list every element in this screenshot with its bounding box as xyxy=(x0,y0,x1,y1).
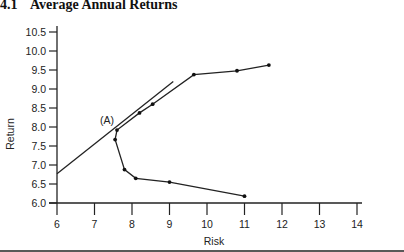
data-point-marker xyxy=(235,69,239,73)
x-tick-label: 11 xyxy=(239,218,250,230)
y-tick-label: 6.0 xyxy=(31,197,46,209)
x-tick-label: 9 xyxy=(167,218,173,230)
y-tick-label: 10.0 xyxy=(26,45,47,57)
data-point-marker xyxy=(134,176,138,180)
data-point-marker xyxy=(243,194,247,198)
data-point-marker xyxy=(192,73,196,77)
data-point-marker xyxy=(113,138,117,142)
x-tick-label: 13 xyxy=(314,218,326,230)
y-axis-label: Return xyxy=(4,118,16,150)
x-tick-label: 10 xyxy=(201,218,213,230)
y-tick-label: 9.5 xyxy=(31,64,46,76)
x-tick-label: 6 xyxy=(54,218,60,230)
chart-series: (A) xyxy=(57,63,271,198)
tangent-line xyxy=(57,81,173,173)
risk-return-chart: 6.06.57.07.58.08.59.09.510.010.567891011… xyxy=(0,0,404,252)
data-point-marker xyxy=(123,168,127,172)
data-point-marker xyxy=(267,63,271,67)
y-tick-label: 8.0 xyxy=(31,121,46,133)
data-point-marker xyxy=(151,102,155,106)
data-point-marker xyxy=(115,128,119,132)
x-tick-label: 8 xyxy=(129,218,135,230)
x-tick-label: 14 xyxy=(351,218,363,230)
point-annotation: (A) xyxy=(100,114,114,126)
x-tick-label: 7 xyxy=(92,218,98,230)
y-tick-label: 7.5 xyxy=(31,140,46,152)
x-tick-label: 12 xyxy=(276,218,288,230)
data-point-marker xyxy=(168,180,172,184)
chart-axes: 6.06.57.07.58.08.59.09.510.010.567891011… xyxy=(26,26,363,231)
data-point-marker xyxy=(138,111,142,115)
frontier-line xyxy=(115,65,269,196)
y-tick-label: 7.0 xyxy=(31,159,46,171)
y-tick-label: 8.5 xyxy=(31,102,46,114)
y-tick-label: 10.5 xyxy=(26,26,47,38)
y-tick-label: 6.5 xyxy=(31,178,46,190)
x-axis-label: Risk xyxy=(204,235,225,247)
y-tick-label: 9.0 xyxy=(31,83,46,95)
